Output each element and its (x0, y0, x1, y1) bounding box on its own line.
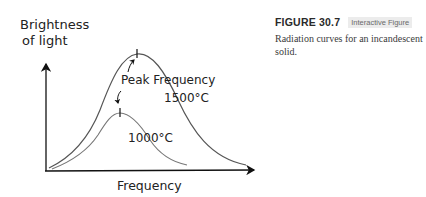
annotation-1500c: 1500°C (164, 91, 209, 105)
chart-canvas: Brightness of light Frequency Peak Frequ… (0, 0, 300, 197)
annotation-1000c: 1000°C (128, 131, 173, 145)
curve-1500c (49, 54, 246, 168)
y-axis-label-line1: Brightness (20, 17, 89, 32)
radiation-chart: Brightness of light Frequency Peak Frequ… (0, 0, 300, 197)
annotation-peak-frequency: Peak Frequency (121, 73, 215, 87)
figure-number: FIGURE 30.7 (275, 16, 340, 28)
x-axis-label: Frequency (117, 178, 182, 193)
figure-header: FIGURE 30.7 Interactive Figure (275, 16, 425, 28)
interactive-figure-badge[interactable]: Interactive Figure (348, 17, 412, 28)
arrow-to-1500c-peak (128, 60, 134, 72)
y-axis-label-line2: of light (22, 33, 67, 48)
x-axis (45, 170, 254, 171)
arrow-to-1000c-peak (118, 91, 121, 103)
caption-text: Radiation curves for an incandescent sol… (275, 32, 425, 58)
figure-caption: FIGURE 30.7 Interactive Figure Radiation… (275, 16, 425, 58)
